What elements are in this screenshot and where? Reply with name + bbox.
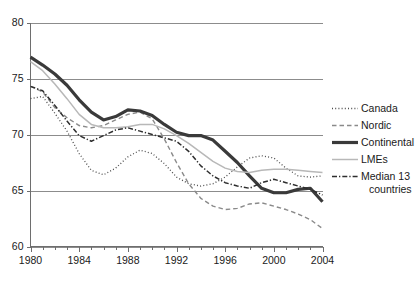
line-chart: 6065707580 1980198419881992199620002004 …: [0, 0, 418, 286]
xtick-label-1980: 1980: [19, 254, 43, 266]
legend-label-canada: Canada: [361, 102, 398, 114]
chart-container: 6065707580 1980198419881992199620002004 …: [0, 0, 418, 286]
xtick-label-1996: 1996: [213, 254, 237, 266]
xtick-label-2000: 2000: [262, 254, 286, 266]
legend-label-median-13-countries: Median 13: [361, 170, 410, 182]
series-line-lmes: [31, 62, 323, 173]
ytick-label-70: 70: [12, 128, 24, 140]
legend-group: CanadaNordicContinentalLMEsMedian 13coun…: [332, 102, 414, 195]
xtick-labels-group: 1980198419881992199620002004: [19, 254, 335, 266]
legend-label-continental: Continental: [361, 136, 414, 148]
xtick-label-1988: 1988: [116, 254, 140, 266]
xticks-group: [27, 24, 324, 252]
ytick-label-75: 75: [12, 72, 24, 84]
xtick-label-1992: 1992: [165, 254, 189, 266]
xtick-label-1984: 1984: [67, 254, 91, 266]
axes-group: [31, 23, 323, 247]
legend-label-median-13-countries-line2: countries: [369, 183, 412, 195]
series-line-canada: [31, 96, 323, 186]
legend-label-lmes: LMEs: [361, 153, 388, 165]
series-line-median-13-countries: [31, 86, 323, 195]
legend-label-nordic: Nordic: [361, 119, 391, 131]
ytick-label-65: 65: [12, 184, 24, 196]
series-group: [31, 57, 323, 228]
ytick-label-60: 60: [12, 240, 24, 252]
xtick-label-2004: 2004: [311, 254, 335, 266]
ytick-label-80: 80: [12, 16, 24, 28]
ytick-labels-group: 6065707580: [12, 16, 24, 252]
